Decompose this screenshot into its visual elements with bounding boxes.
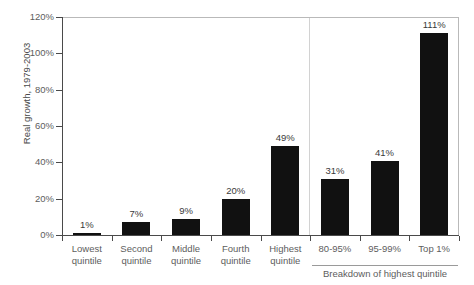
x-axis-tick [161, 236, 162, 241]
group-divider-line [309, 18, 310, 235]
category-label-line2: quintile [255, 255, 315, 267]
category-label-line1: Top 1% [404, 243, 464, 255]
y-axis-tick [56, 90, 62, 91]
bar-chart: Real growth, 1979-2003 120%100%80%60%40%… [0, 0, 474, 285]
y-axis-tick [56, 162, 62, 163]
bar-value-label: 49% [259, 133, 311, 143]
bar [371, 161, 399, 235]
category-label: Top 1% [404, 243, 464, 255]
x-axis-tick [112, 236, 113, 241]
x-axis-tick [360, 236, 361, 241]
bar [222, 199, 250, 235]
x-axis-tick [310, 236, 311, 241]
x-axis-tick [62, 236, 63, 241]
bar [122, 222, 150, 235]
y-axis-tick-label: 20% [6, 194, 54, 204]
bar [172, 219, 200, 235]
bar [271, 146, 299, 235]
bar [420, 33, 448, 235]
bar [73, 233, 101, 235]
x-axis-tick [409, 236, 410, 241]
y-axis-tick-label: 120% [6, 12, 54, 22]
bar-value-label: 41% [359, 148, 411, 158]
y-axis-tick [56, 199, 62, 200]
bar-value-label: 31% [309, 166, 361, 176]
bar-value-label: 1% [61, 220, 113, 230]
y-axis-tick-label: 40% [6, 157, 54, 167]
plot-frame [62, 17, 459, 235]
bar [321, 179, 349, 235]
y-axis-tick-label: 0% [6, 230, 54, 240]
breakdown-rule [312, 265, 458, 266]
bar-value-label: 20% [210, 186, 262, 196]
y-axis-tick-label: 100% [6, 48, 54, 58]
x-axis-tick [261, 236, 262, 241]
bar-value-label: 111% [408, 20, 460, 30]
x-axis-tick [211, 236, 212, 241]
y-axis-tick [56, 126, 62, 127]
y-axis-tick [56, 17, 62, 18]
y-axis-tick-label: 60% [6, 121, 54, 131]
bar-value-label: 7% [110, 209, 162, 219]
x-axis-tick [459, 236, 460, 241]
y-axis-tick-label: 80% [6, 85, 54, 95]
y-axis-tick [56, 53, 62, 54]
y-axis-line [62, 17, 63, 236]
bar-value-label: 9% [160, 206, 212, 216]
breakdown-caption: Breakdown of highest quintile [300, 268, 470, 279]
